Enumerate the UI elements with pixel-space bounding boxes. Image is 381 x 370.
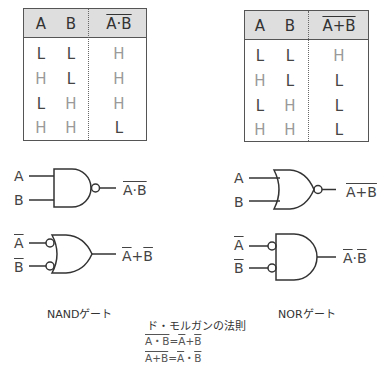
nor-input-a-label: A — [234, 170, 244, 186]
de-morgan-formula-1: A・B=A+B — [145, 333, 201, 348]
nand-input-a-label: A — [14, 168, 24, 184]
de-morgan-title: ド・モルガンの法則 — [147, 317, 246, 333]
nor-input-b-label: B — [234, 194, 244, 210]
nand-caption: NANDゲート — [47, 305, 112, 321]
nand-equiv-output-label: A+B — [122, 248, 153, 264]
nand-output-label: A·B — [123, 182, 147, 198]
nor-equiv-output-label: A·B — [343, 250, 367, 266]
nand-input-b-label: B — [14, 192, 24, 208]
nand-equiv-input-a-label: A — [14, 235, 24, 251]
de-morgan-formula-2: A+B=A・B — [145, 350, 201, 365]
nor-output-label: A+B — [346, 184, 377, 200]
nand-equiv-input-b-label: B — [14, 259, 24, 275]
nor-gate-symbol — [249, 170, 336, 209]
nor-equiv-input-b-label: B — [234, 260, 244, 276]
and-gate-inverted-inputs-symbol — [249, 234, 336, 280]
nand-gate-symbol — [29, 169, 116, 207]
nor-equiv-input-a-label: A — [234, 237, 244, 253]
nor-caption: NORゲート — [278, 305, 336, 321]
or-gate-inverted-inputs-symbol — [29, 235, 116, 273]
